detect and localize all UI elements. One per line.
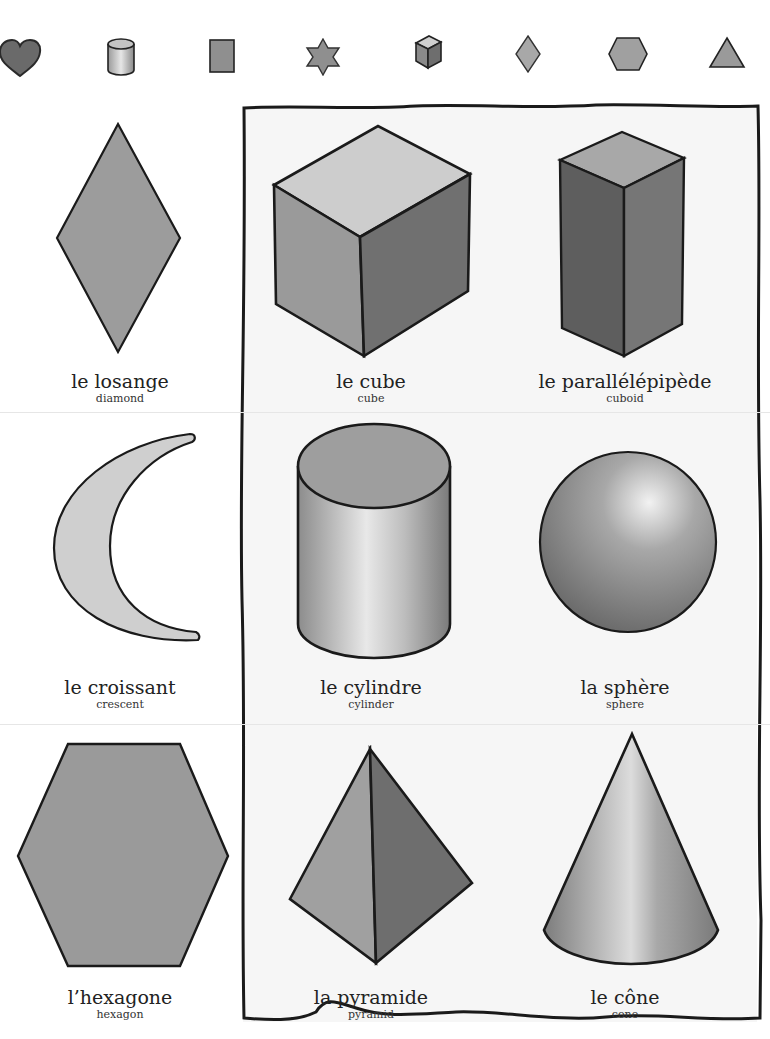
label-pyramid: la pyramide pyramid	[251, 986, 491, 1021]
triangle-icon	[708, 36, 746, 70]
cuboid-shape	[556, 128, 690, 360]
row-divider	[0, 724, 770, 725]
pyramid-shape	[280, 745, 476, 967]
label-sphere: la sphère sphere	[505, 676, 745, 711]
hexagon-icon	[607, 36, 649, 72]
rectangle-icon	[208, 38, 236, 74]
diamond-icon	[514, 34, 542, 74]
label-cube: le cube cube	[251, 370, 491, 405]
label-cylinder: le cylindre cylinder	[251, 676, 491, 711]
cylinder-shape	[292, 418, 456, 662]
label-diamond: le losange diamond	[0, 370, 240, 405]
label-cone: le cône cone	[505, 986, 745, 1021]
cone-shape	[540, 730, 722, 980]
sphere-shape	[537, 448, 719, 636]
star-icon	[305, 38, 341, 76]
crescent-shape	[50, 428, 210, 652]
row-divider	[0, 412, 770, 413]
diamond-shape	[52, 120, 186, 356]
label-hexagon: l’hexagone hexagon	[0, 986, 240, 1021]
heart-icon	[0, 38, 44, 78]
label-crescent: le croissant crescent	[0, 676, 240, 711]
label-cuboid: le parallélépipède cuboid	[505, 370, 745, 405]
cube-shape	[268, 118, 474, 362]
cylinder-icon	[105, 36, 137, 78]
cube-icon	[413, 34, 445, 70]
hexagon-shape	[14, 740, 232, 970]
